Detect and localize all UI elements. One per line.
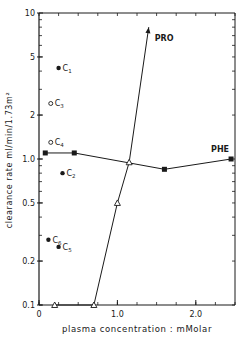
triangle-marker	[114, 200, 120, 206]
open-circle-marker	[49, 140, 53, 144]
series-label-pro: PRO	[155, 34, 174, 43]
open-circle-marker	[49, 101, 53, 105]
triangle-marker	[126, 159, 132, 165]
clearance-chart: 10521.00.50.20.101.02.0 PHEPRO C1C3C4C2C…	[0, 0, 245, 341]
y-tick-label: 5	[30, 53, 35, 62]
series-label-phe: PHE	[211, 145, 229, 154]
x-axis-label: plasma concentration : mMolar	[62, 324, 212, 334]
point-label: C3	[55, 99, 65, 109]
series-line-pro	[55, 162, 129, 305]
filled-circle-marker	[56, 66, 60, 70]
square-marker	[43, 150, 48, 155]
filled-circle-marker	[56, 245, 60, 249]
y-tick-label: 10	[25, 9, 35, 18]
series-arrow-line	[129, 27, 149, 162]
annotations-layer: C1C3C4C2C6C5	[46, 64, 75, 253]
filled-circle-marker	[60, 171, 64, 175]
y-tick-label: 0.5	[22, 199, 35, 208]
square-marker	[229, 157, 234, 162]
point-label: C5	[63, 243, 73, 253]
y-tick-label: 2	[30, 111, 35, 120]
arrowhead-icon	[145, 27, 150, 33]
x-tick-label: 0	[36, 310, 41, 319]
x-tick-label: 2.0	[189, 310, 202, 319]
point-label: C4	[55, 138, 65, 148]
x-tick-label: 1.0	[111, 310, 124, 319]
y-tick-label: 0.2	[22, 257, 35, 266]
square-marker	[162, 167, 167, 172]
y-tick-label: 1.0	[22, 155, 35, 164]
filled-circle-marker	[46, 238, 50, 242]
y-axis-label: clearance rate ml/min/1.73m²	[5, 92, 14, 228]
y-tick-label: 0.1	[22, 301, 35, 310]
point-label: C2	[67, 169, 76, 179]
point-label: C1	[63, 64, 72, 74]
point-label: C6	[52, 236, 62, 246]
square-marker	[72, 150, 77, 155]
